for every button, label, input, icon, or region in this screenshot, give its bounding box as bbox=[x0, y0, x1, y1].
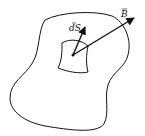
surface-diagram bbox=[0, 0, 145, 136]
b-vector-arrow bbox=[73, 18, 134, 55]
ds-label: dS bbox=[69, 24, 81, 33]
b-label: B bbox=[121, 10, 128, 19]
